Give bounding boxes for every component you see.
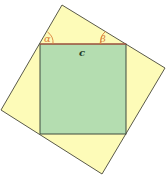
side-c-label: c xyxy=(79,47,85,58)
diagram-canvas: α β c xyxy=(0,0,167,179)
alpha-label: α xyxy=(44,33,51,44)
beta-label: β xyxy=(99,33,106,44)
